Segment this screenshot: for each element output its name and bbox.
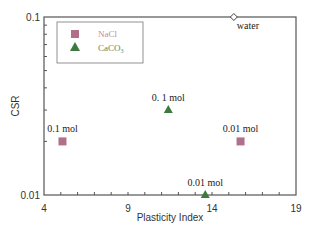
plasticity-csr-scatter-chart: 0.010.1 491419 Plasticity Index CSR NaCl… bbox=[0, 0, 312, 235]
x-tick-label: 9 bbox=[125, 203, 131, 214]
legend: NaCl CaCO3 bbox=[57, 22, 143, 63]
y-axis-tick-labels: 0.010.1 bbox=[21, 12, 41, 201]
point-label: 0.01 mol bbox=[223, 123, 259, 134]
nacl-square-marker-icon bbox=[237, 137, 245, 145]
point-label: 0.01 mol bbox=[187, 177, 223, 188]
x-axis-label: Plasticity Index bbox=[137, 212, 204, 223]
caco3-triangle-marker-icon bbox=[201, 190, 210, 198]
caco3-triangle-marker-icon bbox=[164, 105, 173, 113]
y-tick-label: 0.1 bbox=[26, 12, 40, 23]
legend-nacl-square-icon bbox=[71, 30, 79, 38]
x-tick-label: 19 bbox=[290, 203, 302, 214]
nacl-square-marker-icon bbox=[58, 137, 66, 145]
y-axis-label: CSR bbox=[10, 95, 21, 116]
legend-caco3-label: CaCO3 bbox=[98, 43, 124, 54]
x-tick-label: 4 bbox=[41, 203, 47, 214]
point-label: water bbox=[237, 20, 260, 31]
y-tick-label: 0.01 bbox=[21, 190, 41, 201]
point-label: 0. 1 mol bbox=[152, 92, 185, 103]
x-tick-label: 14 bbox=[206, 203, 218, 214]
legend-nacl-label: NaCl bbox=[98, 29, 117, 39]
point-label: 0.1 mol bbox=[47, 123, 78, 134]
